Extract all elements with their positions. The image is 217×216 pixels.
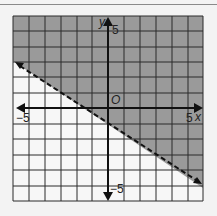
x-tick-5: 5 <box>186 111 193 125</box>
x-tick-neg5: −5 <box>16 111 30 125</box>
origin-label: O <box>111 93 120 107</box>
x-axis-label: x <box>194 110 202 124</box>
y-tick-5: 5 <box>112 23 119 37</box>
y-axis-label: y <box>98 15 106 29</box>
y-tick-neg5: −5 <box>110 182 124 196</box>
inequality-graph: y 5 O −5 5 x −5 <box>0 0 217 216</box>
